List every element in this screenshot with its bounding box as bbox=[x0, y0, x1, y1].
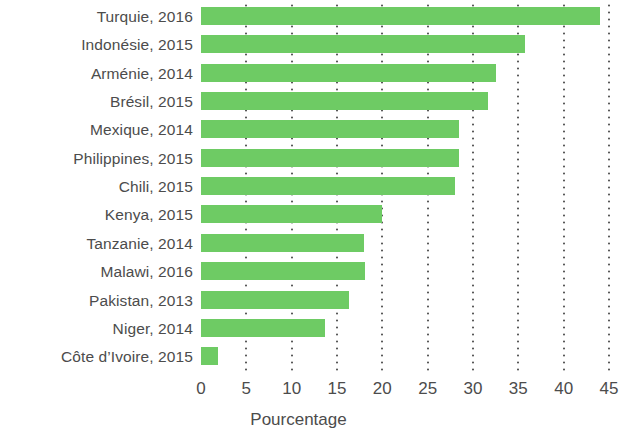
bar bbox=[201, 205, 382, 223]
plot-area bbox=[201, 0, 609, 372]
x-tick-label: 40 bbox=[554, 378, 573, 400]
bar bbox=[201, 319, 325, 337]
x-tick-label: 0 bbox=[196, 378, 205, 400]
category-label: Tanzanie, 2014 bbox=[0, 235, 193, 253]
category-label: Mexique, 2014 bbox=[0, 121, 193, 139]
category-label: Brésil, 2015 bbox=[0, 93, 193, 111]
gridline bbox=[563, 2, 565, 372]
bar bbox=[201, 177, 455, 195]
x-axis-title: Pourcentage bbox=[0, 409, 621, 431]
category-label: Philippines, 2015 bbox=[0, 150, 193, 168]
bar bbox=[201, 120, 459, 138]
x-axis-ticklabels: 051015202530354045 bbox=[201, 378, 609, 402]
category-label: Turquie, 2016 bbox=[0, 8, 193, 26]
category-label: Pakistan, 2013 bbox=[0, 292, 193, 310]
gridline bbox=[608, 2, 610, 372]
bar bbox=[201, 92, 488, 110]
category-label: Arménie, 2014 bbox=[0, 65, 193, 83]
category-label: Niger, 2014 bbox=[0, 320, 193, 338]
bar-chart: Turquie, 2016Indonésie, 2015Arménie, 201… bbox=[0, 0, 621, 442]
x-tick-label: 20 bbox=[373, 378, 392, 400]
gridline bbox=[472, 2, 474, 372]
x-axis-title-text: Pourcentage bbox=[250, 409, 346, 431]
x-tick-label: 5 bbox=[242, 378, 251, 400]
gridline bbox=[517, 2, 519, 372]
x-tick-label: 30 bbox=[464, 378, 483, 400]
category-label: Chili, 2015 bbox=[0, 178, 193, 196]
x-tick-label: 35 bbox=[509, 378, 528, 400]
bar bbox=[201, 291, 349, 309]
bar bbox=[201, 347, 218, 365]
category-label: Malawi, 2016 bbox=[0, 263, 193, 281]
category-label: Indonésie, 2015 bbox=[0, 36, 193, 54]
x-tick-label: 25 bbox=[418, 378, 437, 400]
category-label: Côte d’Ivoire, 2015 bbox=[0, 348, 193, 366]
x-tick-label: 10 bbox=[282, 378, 301, 400]
bar bbox=[201, 149, 459, 167]
bar bbox=[201, 64, 496, 82]
bar bbox=[201, 262, 365, 280]
bar bbox=[201, 234, 364, 252]
bar bbox=[201, 35, 525, 53]
category-axis: Turquie, 2016Indonésie, 2015Arménie, 201… bbox=[0, 0, 193, 372]
category-label: Kenya, 2015 bbox=[0, 206, 193, 224]
x-tick-label: 15 bbox=[328, 378, 347, 400]
bar bbox=[201, 7, 600, 25]
x-tick-label: 45 bbox=[600, 378, 619, 400]
